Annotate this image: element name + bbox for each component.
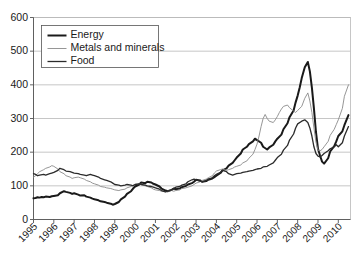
- legend-label-food: Food: [71, 54, 95, 66]
- y-tick-label-500: 500: [10, 44, 28, 56]
- y-tick-label-300: 300: [10, 112, 28, 124]
- legend-label-metals-and-minerals: Metals and minerals: [71, 41, 165, 53]
- y-tick-label-100: 100: [10, 179, 28, 191]
- chart-legend: EnergyMetals and mineralsFood: [42, 26, 165, 68]
- y-tick-label-0: 0: [22, 213, 28, 225]
- y-tick-label-400: 400: [10, 78, 28, 90]
- legend-label-energy: Energy: [71, 28, 105, 40]
- y-tick-label-600: 600: [10, 11, 28, 23]
- commodity-price-index-chart: 0100200300400500600 19951996199719981999…: [0, 0, 364, 258]
- y-tick-label-200: 200: [10, 145, 28, 157]
- chart-canvas: 0100200300400500600 19951996199719981999…: [0, 0, 364, 258]
